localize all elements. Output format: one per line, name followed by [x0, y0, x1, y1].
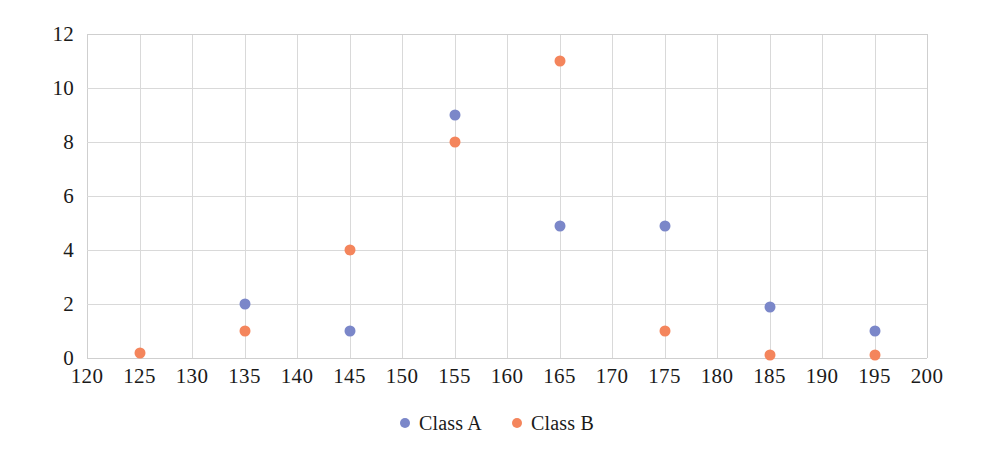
x-tick-label: 125	[123, 366, 155, 387]
data-point[interactable]	[134, 347, 145, 358]
x-tick-label: 175	[648, 366, 680, 387]
data-point[interactable]	[764, 350, 775, 361]
y-tick-label: 8	[63, 132, 74, 153]
x-tick-label: 160	[491, 366, 523, 387]
gridline-horizontal	[87, 34, 927, 35]
x-tick-label: 150	[386, 366, 418, 387]
data-point[interactable]	[659, 326, 670, 337]
scatter-chart: 024681012 120125130135140145150155160165…	[0, 0, 994, 465]
x-tick-label: 190	[806, 366, 838, 387]
y-tick-label: 12	[52, 24, 74, 45]
x-tick-label: 155	[438, 366, 470, 387]
x-tick-label: 185	[753, 366, 785, 387]
x-tick-label: 180	[701, 366, 733, 387]
x-tick-label: 195	[858, 366, 890, 387]
data-point[interactable]	[344, 326, 355, 337]
data-point[interactable]	[449, 110, 460, 121]
data-point[interactable]	[764, 301, 775, 312]
data-point[interactable]	[449, 137, 460, 148]
x-tick-label: 145	[333, 366, 365, 387]
legend-label: Class A	[419, 413, 482, 433]
x-tick-label: 135	[228, 366, 260, 387]
chart-legend: Class AClass B	[0, 413, 994, 433]
data-point[interactable]	[659, 220, 670, 231]
data-point[interactable]	[869, 350, 880, 361]
gridline-horizontal	[87, 250, 927, 251]
data-point[interactable]	[344, 245, 355, 256]
gridline-horizontal	[87, 304, 927, 305]
x-tick-label: 130	[176, 366, 208, 387]
data-point[interactable]	[869, 326, 880, 337]
x-tick-label: 200	[911, 366, 943, 387]
data-point[interactable]	[239, 326, 250, 337]
y-tick-label: 10	[52, 78, 74, 99]
plot-area	[87, 34, 927, 358]
data-point[interactable]	[239, 299, 250, 310]
y-axis-tick-labels: 024681012	[0, 34, 74, 358]
x-tick-label: 120	[71, 366, 103, 387]
legend-item[interactable]: Class B	[512, 413, 594, 433]
gridline-vertical	[927, 34, 928, 358]
x-tick-label: 165	[543, 366, 575, 387]
data-point[interactable]	[554, 220, 565, 231]
legend-marker-icon	[400, 418, 410, 428]
gridline-horizontal	[87, 196, 927, 197]
y-tick-label: 2	[63, 294, 74, 315]
gridline-horizontal	[87, 358, 927, 359]
legend-item[interactable]: Class A	[400, 413, 482, 433]
x-tick-label: 140	[281, 366, 313, 387]
legend-marker-icon	[512, 418, 522, 428]
y-tick-label: 6	[63, 186, 74, 207]
data-point[interactable]	[554, 56, 565, 67]
legend-label: Class B	[531, 413, 594, 433]
x-axis-tick-labels: 1201251301351401451501551601651701751801…	[87, 366, 927, 394]
x-tick-label: 170	[596, 366, 628, 387]
gridline-horizontal	[87, 142, 927, 143]
gridline-horizontal	[87, 88, 927, 89]
y-tick-label: 4	[63, 240, 74, 261]
